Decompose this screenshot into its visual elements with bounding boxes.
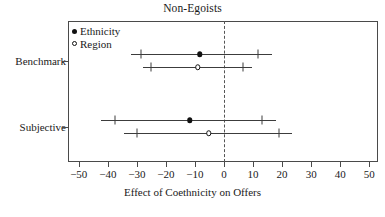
legend-item-region: Region — [72, 38, 120, 51]
filled-circle-icon — [72, 29, 77, 34]
confidence-interval-cap — [262, 116, 263, 125]
x-axis-tick — [311, 162, 312, 167]
confidence-interval-cap — [279, 129, 280, 138]
open-circle-icon — [72, 41, 77, 46]
y-axis-category-label: Subjective — [0, 121, 66, 133]
x-axis-tick-label: 10 — [248, 168, 259, 180]
x-axis-tick-label: −30 — [128, 168, 145, 180]
x-axis-tick-label: −40 — [99, 168, 116, 180]
x-axis-tick-label: 30 — [306, 168, 317, 180]
point-estimate-region — [206, 130, 212, 136]
zero-reference-line — [224, 21, 225, 162]
confidence-interval-cap — [151, 63, 152, 72]
x-axis-tick — [137, 162, 138, 167]
x-axis-tick-label: −50 — [70, 168, 87, 180]
forest-plot-chart: Non-Egoists −50−40−30−20−1001020304050Be… — [0, 0, 385, 217]
chart-legend: Ethnicity Region — [72, 25, 120, 50]
point-estimate-ethnicity — [187, 117, 193, 123]
x-axis-tick — [195, 162, 196, 167]
x-axis-tick — [224, 162, 225, 167]
x-axis-tick — [369, 162, 370, 167]
x-axis-tick-label: −10 — [186, 168, 203, 180]
y-axis-category-label: Benchmark — [0, 55, 66, 67]
x-axis-title: Effect of Coethnicity on Offers — [0, 186, 385, 198]
x-axis-tick-label: −20 — [157, 168, 174, 180]
y-axis-tick — [62, 127, 68, 128]
x-axis-tick-label: 50 — [364, 168, 375, 180]
point-estimate-region — [195, 64, 201, 70]
x-axis-tick-label: 40 — [335, 168, 346, 180]
confidence-interval-cap — [115, 116, 116, 125]
confidence-interval-cap — [140, 50, 141, 59]
x-axis-tick-label: 0 — [221, 168, 227, 180]
x-axis-tick — [166, 162, 167, 167]
legend-label-ethnicity: Ethnicity — [80, 25, 120, 38]
chart-title: Non-Egoists — [0, 2, 385, 14]
confidence-interval-cap — [136, 129, 137, 138]
x-axis-tick — [79, 162, 80, 167]
x-axis-tick-label: 20 — [277, 168, 288, 180]
point-estimate-ethnicity — [197, 51, 203, 57]
x-axis-tick — [253, 162, 254, 167]
x-axis-tick — [340, 162, 341, 167]
confidence-interval-cap — [242, 63, 243, 72]
x-axis-tick — [282, 162, 283, 167]
confidence-interval-cap — [257, 50, 258, 59]
y-axis-tick — [62, 61, 68, 62]
legend-item-ethnicity: Ethnicity — [72, 25, 120, 38]
x-axis-tick — [108, 162, 109, 167]
legend-label-region: Region — [80, 38, 112, 51]
